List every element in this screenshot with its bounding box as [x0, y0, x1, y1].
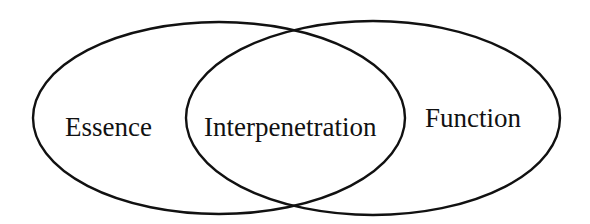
essence-label: Essence	[65, 112, 152, 142]
function-label: Function	[425, 103, 522, 133]
interpenetration-label: Interpenetration	[204, 112, 377, 142]
venn-diagram: Essence Interpenetration Function	[0, 0, 590, 224]
